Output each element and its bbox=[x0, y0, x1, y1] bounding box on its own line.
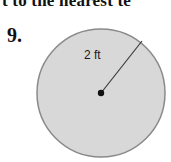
center-point bbox=[98, 90, 104, 96]
radius-label: 2 ft bbox=[84, 48, 101, 62]
circle-figure: 2 ft bbox=[0, 0, 171, 162]
